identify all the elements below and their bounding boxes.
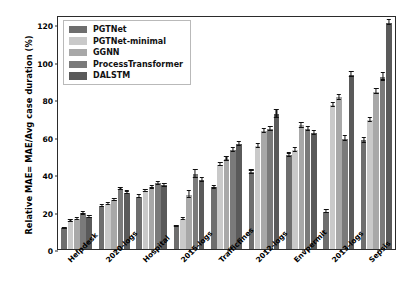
- bar-fill: [230, 150, 236, 249]
- error-bar-cap: [143, 189, 147, 190]
- error-bar-cap: [330, 106, 334, 107]
- error-bar-cap: [299, 127, 303, 128]
- error-bar-cap: [156, 181, 160, 182]
- y-axis-label: Relative MAE= MAE/Avg case duration (%): [24, 15, 34, 255]
- error-bar-cap: [324, 209, 328, 210]
- bar[interactable]: [274, 114, 280, 249]
- error-bar-cap: [231, 151, 235, 152]
- legend-item[interactable]: PGTNet: [69, 25, 183, 34]
- error-bar-cap: [187, 190, 191, 191]
- error-bar-cap: [118, 189, 122, 190]
- error-bar-cap: [305, 130, 309, 131]
- bar[interactable]: [224, 159, 230, 249]
- bar[interactable]: [68, 221, 74, 249]
- error-bar-cap: [106, 202, 110, 203]
- bar[interactable]: [149, 187, 155, 249]
- error-bar-cap: [143, 191, 147, 192]
- error-bar-cap: [87, 217, 91, 218]
- bar[interactable]: [330, 105, 336, 249]
- error-bar-cap: [162, 183, 166, 184]
- bar[interactable]: [261, 131, 267, 249]
- legend-swatch: [69, 72, 87, 80]
- error-bar-cap: [68, 221, 72, 222]
- error-bar-cap: [62, 228, 66, 229]
- bar-fill: [380, 77, 386, 249]
- figure: Relative MAE= MAE/Avg case duration (%) …: [0, 0, 408, 304]
- bar[interactable]: [180, 219, 186, 249]
- error-bar-cap: [237, 145, 241, 146]
- bar[interactable]: [267, 129, 273, 249]
- bar[interactable]: [99, 206, 105, 249]
- legend-label: DALSTM: [93, 71, 130, 80]
- legend-item[interactable]: GGNN: [69, 48, 183, 57]
- error-bar-cap: [218, 165, 222, 166]
- error-bar-cap: [137, 197, 141, 198]
- error-bar-cap: [218, 162, 222, 163]
- error-bar-cap: [249, 169, 253, 170]
- bar[interactable]: [349, 75, 355, 249]
- bar[interactable]: [255, 146, 261, 249]
- error-bar-cap: [174, 226, 178, 227]
- bar[interactable]: [61, 228, 67, 249]
- error-bar-cap: [81, 213, 85, 214]
- bar-fill: [211, 187, 217, 249]
- bar[interactable]: [143, 191, 149, 249]
- error-bar-cap: [380, 79, 384, 80]
- bar-fill: [180, 219, 186, 249]
- error-bar-cap: [287, 156, 291, 157]
- error-bar-cap: [99, 204, 103, 205]
- y-tick-mark-0: [55, 251, 59, 252]
- error-bar-cap: [312, 134, 316, 135]
- bar[interactable]: [386, 23, 392, 250]
- legend-item[interactable]: PGTNet-minimal: [69, 37, 183, 46]
- error-bar-cap: [274, 109, 278, 110]
- error-bar-cap: [368, 121, 372, 122]
- bar[interactable]: [230, 150, 236, 249]
- error-bar-cap: [112, 200, 116, 201]
- bar[interactable]: [211, 187, 217, 249]
- error-bar-cap: [330, 102, 334, 103]
- bar[interactable]: [305, 129, 311, 249]
- bar[interactable]: [217, 165, 223, 249]
- bar-fill: [186, 195, 192, 249]
- bar[interactable]: [292, 150, 298, 249]
- bar-fill: [292, 150, 298, 249]
- error-bar-cap: [249, 173, 253, 174]
- error-bar-cap: [212, 185, 216, 186]
- error-bar-cap: [349, 76, 353, 77]
- error-bar-cap: [125, 190, 129, 191]
- error-bar-cap: [374, 93, 378, 94]
- bar-fill: [61, 228, 67, 249]
- bar[interactable]: [380, 77, 386, 249]
- legend-item[interactable]: DALSTM: [69, 71, 183, 80]
- bar[interactable]: [299, 125, 305, 249]
- error-bar-cap: [193, 169, 197, 170]
- bar[interactable]: [111, 200, 117, 249]
- bar[interactable]: [311, 133, 317, 249]
- legend-item[interactable]: ProcessTransformer: [69, 60, 183, 69]
- bar-fill: [330, 105, 336, 249]
- bar[interactable]: [174, 227, 180, 249]
- bar[interactable]: [186, 195, 192, 249]
- error-bar-cap: [262, 128, 266, 129]
- bar[interactable]: [136, 197, 142, 249]
- error-bar-cap: [62, 227, 66, 228]
- bar-fill: [261, 131, 267, 249]
- bar-fill: [299, 125, 305, 249]
- error-bar-cap: [199, 177, 203, 178]
- error-bar-cap: [187, 197, 191, 198]
- bar[interactable]: [367, 120, 373, 249]
- bar[interactable]: [342, 139, 348, 249]
- error-bar-cap: [387, 19, 391, 20]
- bar-fill: [267, 129, 273, 249]
- error-bar-cap: [287, 152, 291, 153]
- error-bar-cap: [255, 143, 259, 144]
- error-bar-cap: [299, 122, 303, 123]
- bar[interactable]: [336, 97, 342, 249]
- error-bar-cap: [268, 130, 272, 131]
- bar[interactable]: [373, 92, 379, 249]
- bar[interactable]: [105, 204, 111, 249]
- error-bar-cap: [156, 184, 160, 185]
- bar-group: [283, 17, 320, 249]
- error-bar-cap: [231, 147, 235, 148]
